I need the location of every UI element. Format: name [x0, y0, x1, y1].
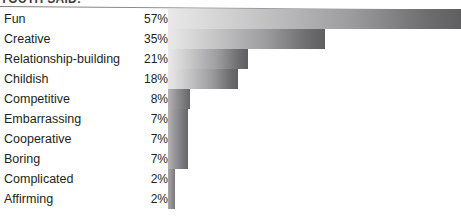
value-label: 2%: [108, 172, 168, 187]
value-label: 35%: [108, 32, 168, 47]
category-label: Childish: [4, 71, 48, 87]
bar-complicated: [168, 169, 175, 189]
table-row: Relationship-building 21%: [0, 49, 461, 69]
value-label: 7%: [108, 112, 168, 127]
chart-rows: Fun 57% Creative 35% Relationship-buildi…: [0, 9, 461, 209]
bar-creative: [168, 29, 325, 49]
table-row: Embarrassing 7%: [0, 109, 461, 129]
table-row: Cooperative 7%: [0, 129, 461, 149]
table-row: Competitive 8%: [0, 89, 461, 109]
bar-boring: [168, 149, 188, 169]
value-label: 57%: [108, 12, 168, 27]
bar-competitive: [168, 89, 190, 109]
table-row: Boring 7%: [0, 149, 461, 169]
bar-fun: [168, 9, 461, 29]
category-label: Embarrassing: [4, 111, 81, 127]
category-label: Fun: [4, 11, 26, 27]
value-label: 7%: [108, 152, 168, 167]
category-label: Competitive: [4, 91, 70, 107]
category-label: Cooperative: [4, 131, 71, 147]
bar-affirming: [168, 189, 175, 209]
value-label: 18%: [108, 72, 168, 87]
category-label: Boring: [4, 151, 40, 167]
table-row: Childish 18%: [0, 69, 461, 89]
value-label: 21%: [108, 52, 168, 67]
category-label: Relationship-building: [4, 51, 120, 67]
bar-cooperative: [168, 129, 188, 149]
category-label: Affirming: [4, 191, 53, 207]
table-row: Affirming 2%: [0, 189, 461, 209]
category-label: Creative: [4, 31, 51, 47]
value-label: 7%: [108, 132, 168, 147]
bar-relationship-building: [168, 49, 248, 69]
table-row: Creative 35%: [0, 29, 461, 49]
table-row: Complicated 2%: [0, 169, 461, 189]
category-label: Complicated: [4, 171, 73, 187]
bar-childish: [168, 69, 238, 89]
value-label: 8%: [108, 92, 168, 107]
horizontal-bar-chart: YOUTH SAID: Fun 57% Creative 35% Relatio…: [0, 0, 461, 217]
bar-embarrassing: [168, 109, 188, 129]
value-label: 2%: [108, 192, 168, 207]
table-row: Fun 57%: [0, 9, 461, 29]
